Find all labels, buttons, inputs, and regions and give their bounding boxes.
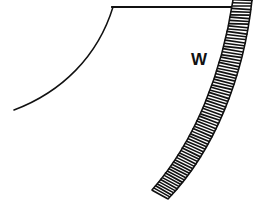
label-w: W: [191, 51, 207, 68]
figure-canvas: W: [0, 0, 256, 203]
band-hatch-stroke: [231, 12, 250, 13]
figure-drawing: [0, 0, 256, 203]
band-hatch-stroke: [230, 20, 249, 21]
band-hatch-stroke: [232, 8, 251, 9]
band-hatch-stroke: [230, 24, 248, 25]
